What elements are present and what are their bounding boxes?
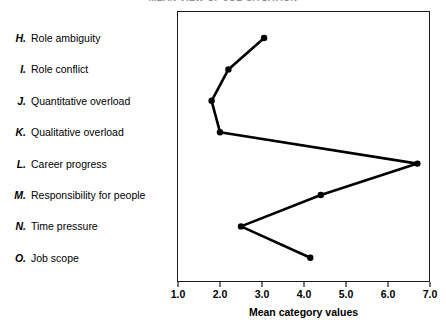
category-key: M. (0, 189, 31, 201)
category-label: Quantitative overload (31, 95, 130, 107)
x-axis-tick-label: 4.0 (284, 288, 324, 300)
category-key: N. (0, 220, 31, 232)
category-key: L. (0, 158, 31, 170)
x-axis-tick-label: 1.0 (158, 288, 198, 300)
x-axis-tick-label: 7.0 (410, 288, 446, 300)
category-label-row: N.Time pressure (0, 219, 176, 233)
category-label: Role conflict (31, 63, 88, 75)
category-label-row: L.Career progress (0, 157, 176, 171)
x-axis-tick-label: 5.0 (326, 288, 366, 300)
category-label-row: K.Qualitative overload (0, 125, 176, 139)
chart-container: MEAN VIEW OF JOB SITUATION H.Role ambigu… (0, 0, 446, 329)
plot-frame (177, 11, 430, 282)
category-key: O. (0, 252, 31, 264)
category-key: J. (0, 95, 31, 107)
category-key: K. (0, 126, 31, 138)
category-label: Role ambiguity (31, 32, 100, 44)
category-label: Responsibility for people (31, 189, 145, 201)
category-key: H. (0, 32, 31, 44)
category-label: Qualitative overload (31, 126, 124, 138)
category-label-row: M.Responsibility for people (0, 188, 176, 202)
category-label-row: O.Job scope (0, 251, 176, 265)
category-label-row: I.Role conflict (0, 62, 176, 76)
x-axis-title: Mean category values (177, 306, 430, 318)
x-axis-tick-label: 3.0 (242, 288, 282, 300)
x-axis-tick-label: 2.0 (200, 288, 240, 300)
category-label-row: J.Quantitative overload (0, 94, 176, 108)
category-label: Time pressure (31, 220, 98, 232)
x-axis-tick-labels: 1.02.03.04.05.06.07.0 (0, 288, 446, 302)
category-label-row: H.Role ambiguity (0, 31, 176, 45)
x-axis-tick-label: 6.0 (368, 288, 408, 300)
x-axis-ticks (178, 282, 430, 287)
category-label: Career progress (31, 158, 107, 170)
category-label-list: H.Role ambiguityI.Role conflictJ.Quantit… (0, 0, 176, 290)
category-key: I. (0, 63, 31, 75)
category-label: Job scope (31, 252, 79, 264)
